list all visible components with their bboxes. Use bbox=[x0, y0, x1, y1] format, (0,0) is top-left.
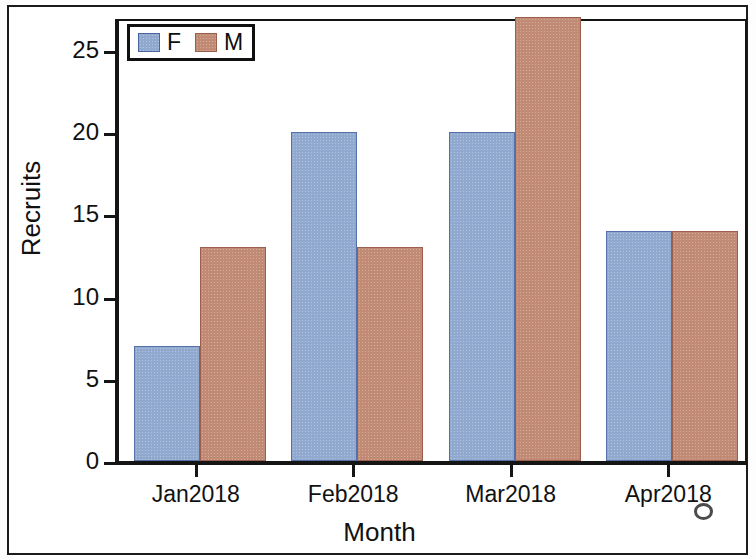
legend-swatch-m-icon bbox=[195, 33, 217, 52]
plot-frame bbox=[117, 19, 747, 463]
y-tick-label: 15 bbox=[24, 200, 99, 228]
x-tick-label-feb2018: Feb2018 bbox=[273, 481, 433, 508]
y-tick-mark bbox=[104, 133, 115, 136]
bar-f-jan2018[interactable] bbox=[134, 346, 200, 461]
legend-item-f: F bbox=[138, 31, 181, 54]
x-tick-mark bbox=[510, 463, 513, 477]
bar-chart-figure: Recruits 0510152025 Jan2018Feb2018Mar201… bbox=[9, 7, 750, 557]
y-tick-mark bbox=[104, 462, 115, 465]
bar-group bbox=[291, 21, 423, 461]
y-tick-mark bbox=[104, 51, 115, 54]
bar-m-feb2018[interactable] bbox=[357, 247, 423, 461]
y-tick-label: 25 bbox=[24, 36, 99, 64]
chart-legend: F M bbox=[127, 24, 255, 61]
bar-f-feb2018[interactable] bbox=[291, 132, 357, 461]
x-tick-label-apr2018: Apr2018 bbox=[588, 481, 748, 508]
legend-label-f: F bbox=[167, 31, 181, 54]
bar-group bbox=[134, 21, 266, 461]
plot-area bbox=[119, 21, 745, 461]
bar-f-apr2018[interactable] bbox=[606, 231, 672, 461]
bar-m-apr2018[interactable] bbox=[672, 231, 738, 461]
legend-label-m: M bbox=[224, 31, 243, 54]
bar-m-mar2018[interactable] bbox=[515, 17, 581, 461]
legend-item-m: M bbox=[195, 31, 243, 54]
y-tick-mark bbox=[104, 215, 115, 218]
y-tick-label: 5 bbox=[24, 365, 99, 393]
bar-group bbox=[606, 21, 738, 461]
y-tick-label: 20 bbox=[24, 118, 99, 146]
y-tick-mark bbox=[104, 380, 115, 383]
x-tick-mark bbox=[352, 463, 355, 477]
bar-f-mar2018[interactable] bbox=[449, 132, 515, 461]
x-axis-title: Month bbox=[9, 517, 750, 548]
x-tick-mark bbox=[195, 463, 198, 477]
x-tick-label-mar2018: Mar2018 bbox=[431, 481, 591, 508]
y-tick-label: 0 bbox=[24, 447, 99, 475]
y-tick-mark bbox=[104, 298, 115, 301]
scan-artifact bbox=[694, 503, 713, 520]
bar-m-jan2018[interactable] bbox=[200, 247, 266, 461]
bar-group bbox=[449, 21, 581, 461]
x-tick-mark bbox=[667, 463, 670, 477]
x-tick-label-jan2018: Jan2018 bbox=[116, 481, 276, 508]
legend-swatch-f-icon bbox=[138, 33, 160, 52]
scanned-page: Recruits 0510152025 Jan2018Feb2018Mar201… bbox=[0, 0, 756, 560]
page-border: Recruits 0510152025 Jan2018Feb2018Mar201… bbox=[7, 5, 748, 555]
y-tick-label: 10 bbox=[24, 283, 99, 311]
